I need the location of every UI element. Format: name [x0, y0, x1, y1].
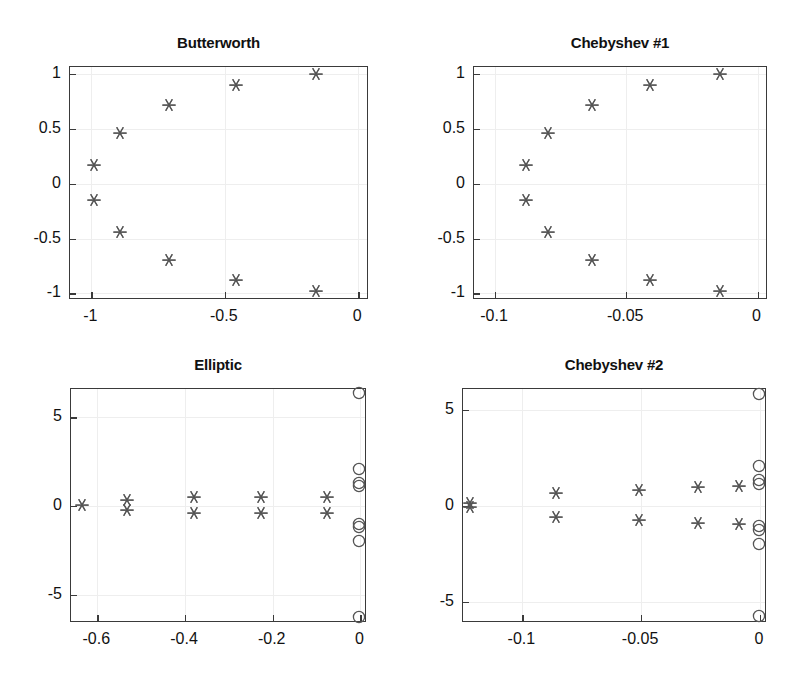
gridline-horizontal	[474, 129, 766, 130]
x-axis-tick	[225, 292, 226, 298]
gridline-horizontal	[463, 506, 765, 507]
y-axis-label: -5	[48, 585, 62, 603]
x-axis-label: -0.5	[210, 307, 238, 325]
x-axis-tick	[185, 615, 186, 621]
x-axis-label: -0.05	[622, 630, 658, 648]
y-axis-label: 0	[445, 496, 454, 514]
y-axis-label: 0	[53, 496, 62, 514]
plot-title-chebyshev1: Chebyshev #1	[473, 34, 767, 51]
gridline-horizontal	[71, 506, 365, 507]
y-axis-tick	[70, 239, 76, 240]
y-axis-label: 5	[445, 400, 454, 418]
x-axis-tick	[91, 292, 92, 298]
gridline-vertical	[495, 67, 496, 298]
y-axis-tick	[70, 293, 76, 294]
x-axis-label: 0	[752, 307, 761, 325]
gridline-vertical	[225, 67, 226, 298]
y-axis-label: 0.5	[443, 119, 465, 137]
gridline-horizontal	[474, 293, 766, 294]
y-axis-tick	[474, 239, 480, 240]
gridline-vertical	[358, 67, 359, 298]
gridline-horizontal	[474, 184, 766, 185]
y-axis-label: 1	[456, 64, 465, 82]
gridline-vertical	[185, 389, 186, 621]
y-axis-tick	[70, 184, 76, 185]
gridline-horizontal	[463, 410, 765, 411]
y-axis-label: 0.5	[39, 119, 61, 137]
x-axis-label: 0	[754, 630, 763, 648]
x-axis-tick	[273, 615, 274, 621]
x-axis-label: -0.2	[258, 630, 286, 648]
plot-panel-butterworth: Butterworth-1-0.500.51-1-0.50	[69, 66, 368, 299]
plot-axes-chebyshev2	[462, 388, 766, 622]
x-axis-tick	[522, 615, 523, 621]
plot-panel-chebyshev1: Chebyshev #1-1-0.500.51-0.1-0.050	[473, 66, 767, 299]
y-axis-label: -1	[451, 283, 465, 301]
y-axis-label: -1	[47, 283, 61, 301]
plot-panel-chebyshev2: Chebyshev #2-505-0.1-0.050	[462, 388, 766, 622]
y-axis-tick	[474, 129, 480, 130]
x-axis-label: 0	[355, 630, 364, 648]
gridline-vertical	[360, 389, 361, 621]
gridline-horizontal	[70, 239, 367, 240]
y-axis-label: -0.5	[33, 229, 61, 247]
gridline-vertical	[626, 67, 627, 298]
gridline-horizontal	[463, 602, 765, 603]
y-axis-tick	[70, 74, 76, 75]
gridline-horizontal	[71, 417, 365, 418]
y-axis-label: 1	[52, 64, 61, 82]
y-axis-tick	[71, 417, 77, 418]
x-axis-tick	[360, 615, 361, 621]
y-axis-label: 0	[52, 174, 61, 192]
y-axis-tick	[474, 74, 480, 75]
plot-title-butterworth: Butterworth	[69, 34, 368, 51]
x-axis-label: -0.4	[170, 630, 198, 648]
gridline-vertical	[97, 389, 98, 621]
gridline-horizontal	[70, 74, 367, 75]
plot-title-chebyshev2: Chebyshev #2	[462, 356, 766, 373]
x-axis-tick	[358, 292, 359, 298]
x-axis-label: 0	[353, 307, 362, 325]
x-axis-tick	[495, 292, 496, 298]
gridline-horizontal	[474, 239, 766, 240]
gridline-vertical	[91, 67, 92, 298]
x-axis-tick	[760, 615, 761, 621]
gridline-vertical	[760, 389, 761, 621]
gridline-horizontal	[70, 184, 367, 185]
y-axis-label: 5	[53, 407, 62, 425]
y-axis-tick	[463, 410, 469, 411]
pole-zero-figure: Butterworth-1-0.500.51-1-0.50Chebyshev #…	[0, 0, 810, 694]
gridline-vertical	[522, 389, 523, 621]
gridline-vertical	[641, 389, 642, 621]
gridline-horizontal	[474, 74, 766, 75]
x-axis-label: -0.1	[480, 307, 508, 325]
plot-axes-butterworth	[69, 66, 368, 299]
gridline-horizontal	[71, 595, 365, 596]
gridline-horizontal	[70, 293, 367, 294]
y-axis-label: -5	[440, 592, 454, 610]
x-axis-tick	[97, 615, 98, 621]
y-axis-label: 0	[456, 174, 465, 192]
y-axis-tick	[71, 595, 77, 596]
y-axis-tick	[463, 602, 469, 603]
gridline-horizontal	[70, 129, 367, 130]
y-axis-tick	[71, 506, 77, 507]
y-axis-tick	[474, 184, 480, 185]
x-axis-tick	[641, 615, 642, 621]
gridline-vertical	[273, 389, 274, 621]
plot-title-elliptic: Elliptic	[70, 356, 366, 373]
x-axis-label: -1	[83, 307, 97, 325]
gridline-vertical	[758, 67, 759, 298]
x-axis-label: -0.1	[508, 630, 536, 648]
x-axis-tick	[758, 292, 759, 298]
x-axis-tick	[626, 292, 627, 298]
plot-axes-chebyshev1	[473, 66, 767, 299]
x-axis-label: -0.05	[607, 307, 643, 325]
plot-panel-elliptic: Elliptic-505-0.6-0.4-0.20	[70, 388, 366, 622]
plot-axes-elliptic	[70, 388, 366, 622]
y-axis-tick	[463, 506, 469, 507]
y-axis-tick	[474, 293, 480, 294]
y-axis-label: -0.5	[437, 229, 465, 247]
x-axis-label: -0.6	[83, 630, 111, 648]
y-axis-tick	[70, 129, 76, 130]
